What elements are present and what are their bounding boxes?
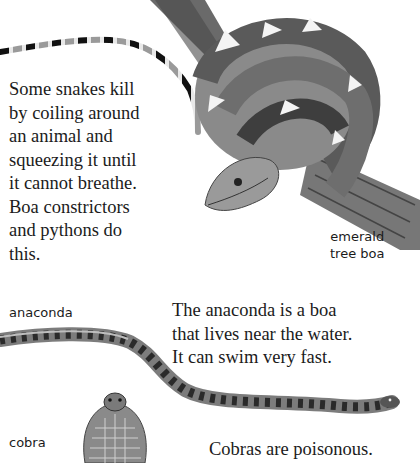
paragraph-line: The anaconda is a boa bbox=[172, 299, 352, 323]
cobra-illustration bbox=[80, 388, 150, 463]
emerald-tree-boa-illustration bbox=[150, 0, 420, 250]
emerald-tree-boa-label: emerald tree boa bbox=[330, 228, 384, 262]
paragraph-line: by coiling around bbox=[9, 102, 140, 126]
cobra-label: cobra bbox=[9, 434, 46, 451]
paragraph-line: an animal and bbox=[9, 125, 140, 149]
paragraph-line: Boa constrictors bbox=[9, 196, 140, 220]
constrictor-paragraph: Some snakes kill by coiling around an an… bbox=[9, 78, 140, 266]
paragraph-line: squeezing it until bbox=[9, 149, 140, 173]
paragraph-line: it cannot breathe. bbox=[9, 172, 140, 196]
cobra-paragraph: Cobras are poisonous. bbox=[209, 438, 373, 462]
anaconda-illustration bbox=[0, 320, 414, 430]
label-line: emerald bbox=[330, 228, 384, 245]
paragraph-line: Cobras are poisonous. bbox=[209, 438, 373, 462]
label-line: tree boa bbox=[330, 245, 384, 262]
anaconda-label: anaconda bbox=[9, 304, 73, 321]
paragraph-line: and pythons do bbox=[9, 219, 140, 243]
paragraph-line: this. bbox=[9, 243, 140, 267]
paragraph-line: Some snakes kill bbox=[9, 78, 140, 102]
